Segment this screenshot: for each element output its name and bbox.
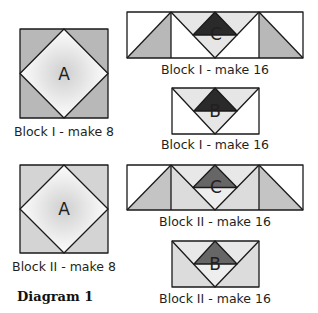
piece-label-c: C — [210, 24, 222, 44]
block1-square: A Block I - make 8 — [14, 29, 114, 139]
diagram-1: A Block I - make 8 C Block I - make 16 — [0, 0, 318, 313]
block2-goose: B Block II - make 16 — [159, 241, 271, 306]
block1-goose: B Block I - make 16 — [161, 88, 269, 152]
block1-square-caption: Block I - make 8 — [14, 124, 114, 139]
block1-strip: C Block I - make 16 — [127, 12, 303, 77]
block2-square-caption: Block II - make 8 — [12, 259, 116, 274]
block2-strip-caption: Block II - make 16 — [159, 214, 271, 229]
piece-label-c-2: C — [210, 177, 222, 197]
block1-goose-caption: Block I - make 16 — [161, 137, 269, 152]
piece-label-a-2: A — [58, 199, 70, 219]
block2-goose-caption: Block II - make 16 — [159, 291, 271, 306]
block2-strip: C Block II - make 16 — [127, 165, 303, 229]
block1-strip-caption: Block I - make 16 — [161, 62, 269, 77]
block2-square: A Block II - make 8 — [12, 165, 116, 274]
piece-label-a: A — [58, 64, 70, 84]
diagram-title: Diagram 1 — [17, 289, 93, 304]
piece-label-b: B — [209, 101, 221, 121]
piece-label-b-2: B — [209, 254, 221, 274]
